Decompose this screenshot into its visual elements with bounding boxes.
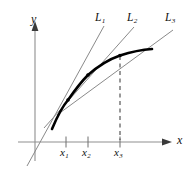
tangent-label-L2: L2 [127, 12, 137, 25]
tangent-lines-diagram [0, 0, 193, 173]
tick-label-x1: x1 [60, 147, 69, 160]
tangent-line-L2 [44, 27, 134, 128]
tick-label-x3-sub: 3 [119, 152, 122, 159]
x-axis-label: x [177, 134, 182, 146]
tangency-point-x3 [118, 54, 122, 58]
figure-container: y x x1 x2 x3 L1 L2 L3 [0, 0, 193, 173]
tangent-label-L1-base: L [95, 11, 101, 23]
tangent-label-L1-sub: 1 [102, 17, 106, 25]
y-axis-label-text: y [31, 12, 36, 26]
tick-label-x2-sub: 2 [87, 152, 90, 159]
tangent-label-L1: L1 [95, 12, 105, 25]
tick-label-x3: x3 [114, 147, 123, 160]
tangency-point-x2 [86, 73, 90, 77]
tangent-label-L2-sub: 2 [134, 17, 138, 25]
tangency-point-x1 [66, 98, 70, 102]
y-axis-label: y [31, 13, 36, 25]
x-axis-label-text: x [177, 133, 182, 147]
tangent-label-L3-base: L [165, 11, 171, 23]
function-curve [52, 49, 152, 129]
tangent-label-L2-base: L [127, 11, 133, 23]
y-axis [32, 21, 39, 161]
x-axis-arrowhead [162, 139, 172, 146]
tangent-line-L3 [57, 30, 173, 115]
tangent-label-L3-sub: 3 [172, 17, 176, 25]
tangent-label-L3: L3 [165, 12, 175, 25]
tick-label-x1-sub: 1 [65, 152, 68, 159]
tick-label-x2: x2 [82, 147, 91, 160]
tangency-points [66, 54, 122, 102]
